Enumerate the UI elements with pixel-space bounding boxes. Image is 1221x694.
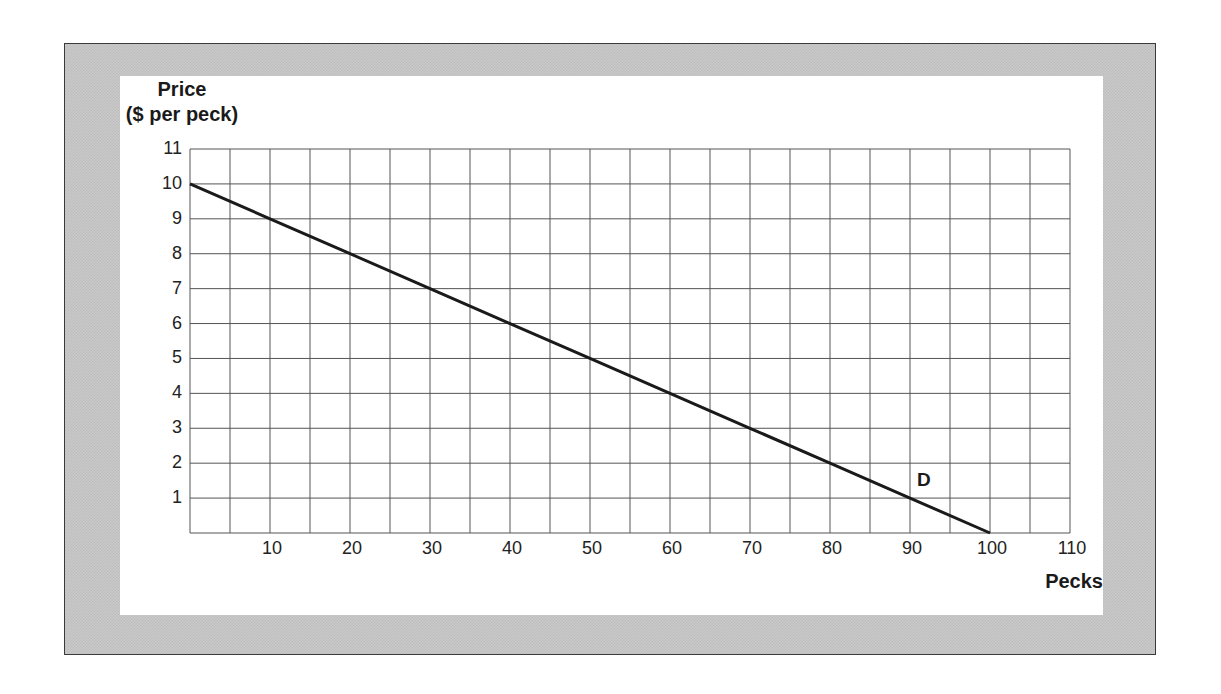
x-tick-label: 100 <box>967 538 1017 559</box>
y-tick-label: 8 <box>142 243 182 264</box>
x-tick-label: 50 <box>567 538 617 559</box>
grid-lines <box>190 149 1070 533</box>
x-tick-label: 20 <box>327 538 377 559</box>
y-tick-label: 3 <box>142 417 182 438</box>
y-tick-label: 4 <box>142 382 182 403</box>
x-tick-label: 60 <box>647 538 697 559</box>
x-tick-label: 70 <box>727 538 777 559</box>
y-axis-title-price: Price <box>117 78 247 101</box>
x-tick-label: 80 <box>807 538 857 559</box>
x-tick-label: 40 <box>487 538 537 559</box>
y-tick-label: 1 <box>142 487 182 508</box>
y-tick-label: 9 <box>142 208 182 229</box>
x-tick-label: 30 <box>407 538 457 559</box>
y-tick-label: 10 <box>142 173 182 194</box>
x-tick-label: 90 <box>887 538 937 559</box>
y-axis-title-units: ($ per peck) <box>114 103 250 126</box>
y-tick-label: 7 <box>142 278 182 299</box>
x-tick-label: 10 <box>247 538 297 559</box>
y-tick-label: 11 <box>142 138 182 159</box>
demand-curve-label: D <box>917 469 931 491</box>
x-axis-title: Pecks <box>1045 570 1103 593</box>
x-tick-label: 110 <box>1047 538 1097 559</box>
y-tick-label: 5 <box>142 347 182 368</box>
y-tick-label: 6 <box>142 313 182 334</box>
y-tick-label: 2 <box>142 452 182 473</box>
